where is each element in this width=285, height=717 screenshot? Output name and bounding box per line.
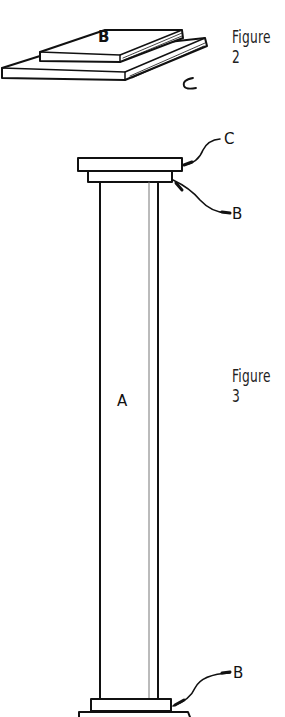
figure3-label-b-top: B	[232, 205, 242, 223]
figure3-label-b-bottom: B	[233, 664, 243, 682]
figure2-caption: Figure 2	[232, 27, 271, 67]
figure3-drawing	[78, 139, 230, 717]
figure3-caption: Figure 3	[232, 366, 271, 406]
figure2-label-b: B	[98, 28, 109, 46]
figure3-label-c: C	[224, 130, 234, 148]
figure3-label-a: A	[117, 392, 127, 410]
diagram-canvas	[0, 0, 285, 717]
